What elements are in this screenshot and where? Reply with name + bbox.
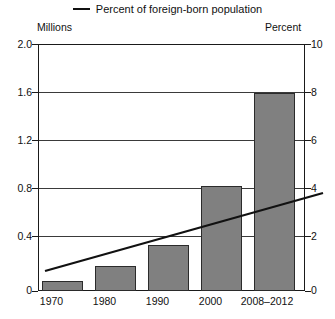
x-tick-1970: 1970 [21, 295, 82, 307]
tick-mark-right-6 [305, 140, 311, 141]
tick-mark-right-4 [305, 188, 311, 189]
right-axis-unit-label: Percent [265, 21, 301, 33]
y-tick-left-1-6: 1.6 [2, 87, 32, 98]
y-tick-left-2-0: 2.0 [2, 39, 32, 50]
y-tick-left-1-2: 1.2 [2, 135, 32, 146]
x-tick-2008-2012: 2008–2012 [228, 295, 306, 307]
left-axis-unit-label: Millions [37, 21, 72, 33]
y-tick-right-2: 2 [311, 231, 335, 242]
tick-mark-right-8 [305, 92, 311, 93]
y-tick-right-10: 10 [311, 39, 335, 50]
y-tick-right-6: 6 [311, 135, 335, 146]
tick-mark-left-0 [32, 291, 38, 292]
legend-line-swatch [73, 8, 90, 10]
y-tick-right-0: 0 [311, 285, 335, 296]
chart-figure: Percent of foreign-born population Milli… [0, 0, 335, 319]
chart-legend: Percent of foreign-born population [0, 0, 335, 18]
tick-mark-right-10 [305, 44, 311, 45]
tick-mark-right-0 [305, 291, 311, 292]
trend-line-percent-foreign-born [38, 44, 305, 291]
y-tick-right-4: 4 [311, 183, 335, 194]
y-tick-left-0-4: 0.4 [2, 231, 32, 242]
y-tick-left-0-8: 0.8 [2, 183, 32, 194]
tick-mark-right-2 [305, 236, 311, 237]
x-tick-1980: 1980 [74, 295, 135, 307]
legend-label-percent-foreign-born: Percent of foreign-born population [96, 3, 262, 15]
x-tick-1990: 1990 [127, 295, 188, 307]
y-tick-right-8: 8 [311, 87, 335, 98]
